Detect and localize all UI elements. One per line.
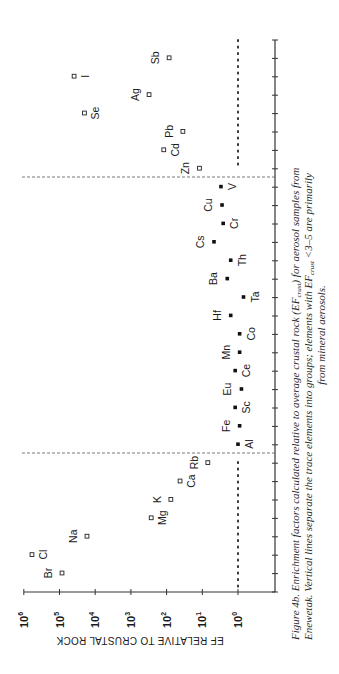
data-point-mn [238, 350, 242, 354]
value-tick-label: 100 [231, 612, 244, 628]
element-label-hf: Hf [211, 310, 223, 321]
data-point-br [60, 571, 64, 575]
element-label-v: V [226, 183, 238, 190]
element-label-se: Se [89, 106, 101, 119]
element-label-i: I [79, 75, 91, 78]
data-point-k [169, 498, 173, 502]
value-tick-label: 104 [88, 612, 101, 628]
svg-text:Enewetak. Vertical lines sepa: Enewetak. Vertical lines separate the tr… [302, 173, 316, 641]
data-point-mg [149, 516, 153, 520]
element-label-sb: Sb [149, 51, 161, 64]
element-label-eu: Eu [221, 382, 233, 395]
data-point-sb [167, 56, 171, 60]
element-axis [272, 40, 278, 592]
value-axis: 106105104103102101100 [17, 589, 275, 628]
data-point-al [236, 442, 240, 446]
data-point-ca [178, 479, 182, 483]
data-point-cd [162, 148, 166, 152]
element-label-zn: Zn [179, 162, 191, 174]
value-tick-label: 106 [17, 612, 30, 628]
data-point-i [72, 74, 76, 78]
svg-text:Figure 4b. Enrichment factors: Figure 4b. Enrichment factors calculated… [289, 168, 303, 641]
enrichment-factor-chart: 106105104103102101100 EF RELATIVE TO CRU… [0, 0, 339, 674]
data-point-th [229, 258, 233, 262]
data-point-hf [229, 314, 233, 318]
element-label-k: K [151, 496, 163, 503]
element-label-cl: Cl [37, 550, 49, 560]
data-point-se [83, 111, 87, 115]
data-point-sc [233, 406, 237, 410]
data-point-ba [225, 277, 229, 281]
element-label-ag: Ag [129, 88, 141, 101]
element-label-pb: Pb [163, 125, 175, 138]
data-points: BrClNaMgKCaRbAlFeScEuCeMnCoHfTaBaThCsCrC… [30, 51, 260, 578]
data-point-v [219, 185, 223, 189]
element-label-ca: Ca [185, 474, 197, 488]
data-point-ce [233, 369, 237, 373]
data-point-co [238, 332, 242, 336]
element-label-rb: Rb [188, 456, 200, 470]
svg-text:from mineral aerosols.: from mineral aerosols. [315, 285, 327, 385]
data-point-rb [206, 461, 210, 465]
element-label-cd: Cd [169, 143, 181, 157]
figure-caption: Figure 4b. Enrichment factors calculated… [289, 168, 327, 641]
element-label-ba: Ba [207, 272, 219, 285]
data-point-cu [220, 203, 224, 207]
value-tick-label: 105 [53, 612, 66, 628]
element-label-cu: Cu [202, 198, 214, 212]
data-point-pb [181, 130, 185, 134]
element-label-mn: Mn [220, 345, 232, 360]
data-point-cl [30, 553, 34, 557]
value-tick-label: 103 [124, 612, 137, 628]
element-label-al: Al [243, 440, 255, 449]
element-label-cr: Cr [228, 217, 240, 229]
element-label-cs: Cs [194, 235, 206, 248]
data-point-cs [212, 240, 216, 244]
data-point-fe [238, 424, 242, 428]
element-label-ce: Ce [240, 364, 252, 378]
value-tick-label: 102 [160, 612, 173, 628]
element-label-na: Na [67, 529, 79, 543]
data-point-zn [198, 166, 202, 170]
value-tick-label: 101 [195, 612, 208, 628]
element-label-mg: Mg [156, 510, 168, 525]
data-point-na [85, 534, 89, 538]
element-label-br: Br [42, 567, 54, 578]
element-label-sc: Sc [240, 401, 252, 413]
data-point-cr [221, 222, 225, 226]
axis-title: EF RELATIVE TO CRUSTAL ROCK [56, 635, 224, 646]
data-point-eu [240, 387, 244, 391]
element-label-th: Th [236, 254, 248, 266]
data-point-ta [242, 295, 246, 299]
element-label-co: Co [245, 327, 257, 341]
data-point-ag [147, 93, 151, 97]
element-label-ta: Ta [249, 291, 261, 302]
element-label-fe: Fe [220, 420, 232, 432]
